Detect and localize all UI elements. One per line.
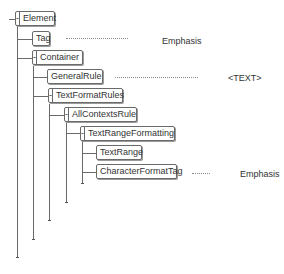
character-format-tag-annotation-leader [192,173,210,174]
node-label: Element [20,12,59,25]
general-rule-connector [33,77,47,78]
node-label: GeneralRule [48,70,105,83]
tree-node-general-rule[interactable]: GeneralRule [47,69,103,84]
tag-annotation: Emphasis [162,36,202,46]
text-range-formatting-children-line [82,141,83,184]
all-contexts-rule-line-end [65,202,68,203]
character-format-tag-connector [82,172,96,173]
text-format-rules-line-end [48,220,51,221]
tag-connector [17,39,32,40]
tree-node-text-range[interactable]: TextRange [96,145,142,160]
node-label: AllContextsRule [69,108,139,121]
text-range-formatting-line-end [81,183,84,184]
container-connector [17,58,32,59]
general-rule-annotation-leader [115,77,198,78]
tree-node-all-contexts-rule[interactable]: - AllContextsRule [64,107,137,122]
all-contexts-rule-connector [49,115,64,116]
node-label: TextFormatRules [53,89,127,102]
all-contexts-rule-children-line [66,123,67,203]
element-children-line [17,27,18,258]
container-children-line [33,66,34,240]
text-format-rules-connector [33,96,48,97]
text-format-rules-children-line [49,104,50,221]
text-range-connector [82,153,96,154]
node-label: TextRange [97,146,146,159]
tag-annotation-leader [66,38,128,39]
node-label: TextRangeFormatting [85,127,177,140]
tree-node-character-format-tag[interactable]: CharacterFormatTag [96,164,177,179]
node-label: Tag [33,32,54,45]
container-line-end [32,239,35,240]
node-label: Container [37,51,82,64]
element-line-end [16,257,19,258]
tree-node-tag[interactable]: Tag [32,31,50,46]
character-format-tag-annotation: Emphasis [240,169,280,179]
general-rule-annotation: <TEXT> [228,73,262,83]
tree-node-text-format-rules[interactable]: - TextFormatRules [48,88,123,103]
text-range-formatting-connector [66,133,80,134]
tree-node-element[interactable]: - Element [15,11,55,26]
tree-node-text-range-formatting[interactable]: - TextRangeFormatting [80,126,175,141]
node-label: CharacterFormatTag [97,165,186,178]
tree-node-container[interactable]: - Container [32,50,83,65]
